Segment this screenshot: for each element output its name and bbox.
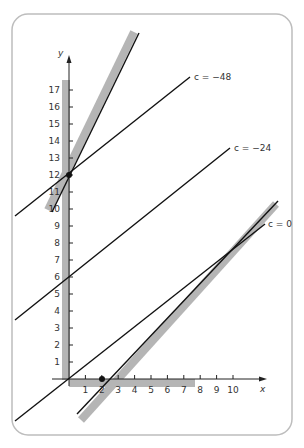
label-c-minus-24: c = −24 [234,143,271,153]
point-0-12 [66,172,72,178]
x-tick-5: 5 [148,385,154,395]
y-tick-4: 4 [54,306,60,316]
y-tick-7: 7 [54,255,60,265]
x-tick-6: 6 [165,385,171,395]
x-tick-10: 10 [227,385,239,395]
x-tick-7: 7 [181,385,187,395]
y-tick-15: 15 [49,119,60,129]
y-tick-17: 17 [49,85,60,95]
y-tick-8: 8 [54,238,60,248]
y-tick-9: 9 [54,221,60,231]
y-tick-16: 16 [49,102,61,112]
y-tick-3: 3 [54,323,60,333]
label-c-minus-48: c = −48 [194,72,231,82]
y-tick-14: 14 [49,136,61,146]
y-tick-12: 12 [49,170,60,180]
iso-line-diagram: y x 1 2 3 4 5 6 7 8 9 10 11 12 13 14 15 … [0,0,304,448]
x-tick-3: 3 [115,385,121,395]
point-2-0 [99,376,105,382]
y-tick-6: 6 [54,272,60,282]
x-axis-label: x [259,384,266,394]
y-axis-label: y [57,48,64,58]
x-tick-8: 8 [197,385,203,395]
y-tick-5: 5 [54,289,60,299]
x-tick-4: 4 [132,385,138,395]
label-c-0: c = 0 [268,219,292,229]
y-tick-1: 1 [54,357,60,367]
x-tick-1: 1 [83,385,89,395]
y-tick-13: 13 [49,153,60,163]
x-tick-9: 9 [214,385,220,395]
y-tick-2: 2 [54,340,60,350]
